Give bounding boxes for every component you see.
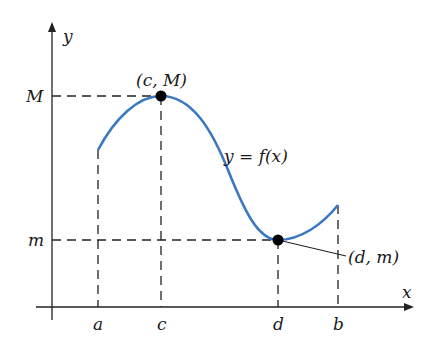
- min-point-label: (d, m): [348, 247, 399, 267]
- max-point-label: (c, M): [136, 70, 187, 90]
- tick-label-b: b: [333, 314, 344, 334]
- tick-label-a: a: [93, 314, 103, 334]
- function-curve: [98, 96, 338, 240]
- tick-label-c: c: [157, 314, 167, 334]
- tick-label-d: d: [273, 314, 284, 334]
- function-label: y = f(x): [223, 146, 288, 166]
- max-point: [156, 91, 167, 102]
- min-point: [273, 235, 284, 246]
- y-axis-label: y: [62, 26, 73, 46]
- tick-label-M: M: [25, 86, 44, 106]
- extreme-value-diagram: y x M m a c d b (c, M) (d, m) y = f(x): [0, 0, 432, 350]
- x-axis-label: x: [402, 282, 412, 302]
- tick-label-m: m: [28, 230, 44, 250]
- min-leader-line: [278, 240, 346, 256]
